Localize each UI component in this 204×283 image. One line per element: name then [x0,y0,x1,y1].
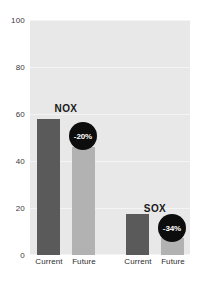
bars-layer: NOX -20% SOX -34% [30,20,190,255]
y-tick-20: 20 [16,204,25,213]
group-label-nox: NOX [55,103,78,114]
x-axis: Current Future Current Future [30,257,190,277]
bar-sox-current [126,214,149,255]
emissions-reduction-bar-chart: 100 80 60 40 20 0 NOX -20% SOX -34% Curr… [0,0,204,283]
x-tick-sox-future: Future [161,257,185,266]
badge-nox-reduction: -20% [69,122,97,150]
x-tick-nox-current: Current [35,257,62,266]
y-tick-80: 80 [16,63,25,72]
y-tick-60: 60 [16,110,25,119]
badge-sox-reduction: -34% [158,214,186,242]
bar-nox-future [72,147,95,255]
group-label-sox: SOX [144,203,166,214]
x-tick-nox-future: Future [72,257,96,266]
y-axis: 100 80 60 40 20 0 [0,20,30,255]
y-tick-40: 40 [16,157,25,166]
y-tick-0: 0 [20,251,25,260]
x-tick-sox-current: Current [124,257,151,266]
bar-nox-current [37,119,60,255]
y-tick-100: 100 [11,16,25,25]
